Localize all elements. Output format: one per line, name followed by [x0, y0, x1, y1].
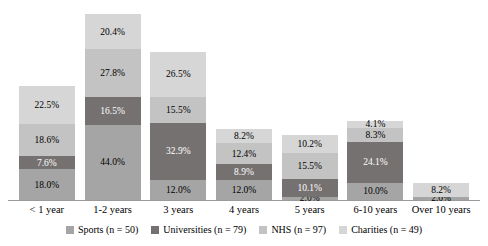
- bar-segment-label: 12.0%: [166, 185, 191, 195]
- bar-segment-label: 8.2%: [234, 131, 254, 141]
- legend-label: Sports (n = 50): [78, 224, 138, 236]
- bar-stack[interactable]: 2.0%10.1%15.5%10.2%: [282, 135, 338, 200]
- bar-segment[interactable]: 44.0%: [85, 125, 141, 200]
- x-axis-baseline: [8, 200, 480, 201]
- x-axis-label-3: 3 years: [145, 202, 211, 218]
- x-axis-label-6: 6-10 years: [343, 202, 409, 218]
- bar-stack[interactable]: 12.0%32.9%15.5%26.5%: [150, 52, 206, 200]
- bar-segment[interactable]: 18.6%: [19, 124, 75, 156]
- legend-label: Universities (n = 79): [163, 224, 246, 236]
- bar-segment[interactable]: 32.9%: [150, 123, 206, 179]
- bar-segment-label: 8.3%: [366, 130, 386, 140]
- bar-segment[interactable]: 7.6%: [19, 156, 75, 169]
- bar-segment[interactable]: 8.3%: [347, 128, 403, 142]
- bar-segment[interactable]: 24.1%: [347, 142, 403, 183]
- legend-swatch-icon: [66, 226, 74, 234]
- bar-segment[interactable]: 16.5%: [85, 97, 141, 125]
- bar-segment-label: 8.2%: [431, 185, 451, 195]
- x-axis-label-5: 5 years: [277, 202, 343, 218]
- bar-segment[interactable]: 10.1%: [282, 179, 338, 196]
- legend-item-3[interactable]: NHS (n = 97): [259, 224, 326, 236]
- bar-segment[interactable]: 8.2%: [216, 129, 272, 143]
- bar-segment-label: 22.5%: [35, 100, 60, 110]
- x-axis-label-4: 4 years: [211, 202, 277, 218]
- bar-segment[interactable]: 10.2%: [282, 135, 338, 152]
- x-axis-label-2: 1-2 years: [80, 202, 146, 218]
- bar-segment-label: 16.5%: [100, 106, 125, 116]
- bar-stack[interactable]: 44.0%16.5%27.8%20.4%: [85, 14, 141, 200]
- legend-item-1[interactable]: Sports (n = 50): [66, 224, 138, 236]
- bar-segment-label: 15.5%: [166, 105, 191, 115]
- bar-segment[interactable]: 8.9%: [216, 164, 272, 179]
- bar-segment-label: 12.0%: [232, 185, 257, 195]
- bar-segment[interactable]: 8.2%: [413, 183, 469, 197]
- bar-stack[interactable]: 2.0%8.2%: [413, 183, 469, 200]
- bar-segment-label: 18.6%: [35, 135, 60, 145]
- bar-segment[interactable]: 26.5%: [150, 52, 206, 97]
- legend-label: Charities (n = 49): [351, 224, 422, 236]
- bar-segment-label: 20.4%: [100, 27, 125, 37]
- bar-segment[interactable]: 12.0%: [216, 180, 272, 201]
- x-axis-tick-labels: < 1 year1-2 years3 years4 years5 years6-…: [0, 202, 488, 220]
- bar-segment-label: 10.0%: [363, 186, 388, 196]
- bar-segment-label: 44.0%: [100, 157, 125, 167]
- bar-segment[interactable]: 18.0%: [19, 169, 75, 200]
- legend-label: NHS (n = 97): [271, 224, 326, 236]
- bar-segment-label: 10.1%: [297, 183, 322, 193]
- bar-segment-label: 18.0%: [35, 180, 60, 190]
- stacked-bar-chart: 18.0%7.6%18.6%22.5%44.0%16.5%27.8%20.4%1…: [0, 0, 488, 246]
- x-axis-label-7: Over 10 years: [408, 202, 474, 218]
- bar-segment-label: 4.1%: [366, 119, 386, 129]
- bar-segment[interactable]: 15.5%: [282, 153, 338, 179]
- bar-segment[interactable]: 12.0%: [150, 180, 206, 201]
- bar-segment[interactable]: 12.4%: [216, 143, 272, 164]
- bar-segment-label: 8.9%: [234, 167, 254, 177]
- bar-stack[interactable]: 12.0%8.9%12.4%8.2%: [216, 129, 272, 200]
- bar-segment-label: 10.2%: [297, 139, 322, 149]
- bar-segment[interactable]: 10.0%: [347, 183, 403, 200]
- legend-item-2[interactable]: Universities (n = 79): [151, 224, 246, 236]
- bar-segment-label: 24.1%: [363, 157, 388, 167]
- bar-segment[interactable]: 2.0%: [282, 197, 338, 200]
- bar-segment-label: 15.5%: [297, 161, 322, 171]
- bar-segment-label: 32.9%: [166, 146, 191, 156]
- bar-segment-label: 26.5%: [166, 69, 191, 79]
- bar-segment-label: 7.6%: [37, 158, 57, 168]
- chart-legend: Sports (n = 50)Universities (n = 79)NHS …: [0, 222, 488, 238]
- x-axis-label-1: < 1 year: [14, 202, 80, 218]
- bar-stack[interactable]: 18.0%7.6%18.6%22.5%: [19, 86, 75, 200]
- bar-stack[interactable]: 10.0%24.1%8.3%4.1%: [347, 121, 403, 200]
- bar-segment[interactable]: 20.4%: [85, 14, 141, 49]
- legend-swatch-icon: [339, 226, 347, 234]
- bar-segment-label: 12.4%: [232, 149, 257, 159]
- bar-segment[interactable]: 27.8%: [85, 49, 141, 97]
- bar-segment[interactable]: 22.5%: [19, 86, 75, 124]
- legend-swatch-icon: [259, 226, 267, 234]
- bar-segment-label: 27.8%: [100, 68, 125, 78]
- legend-item-4[interactable]: Charities (n = 49): [339, 224, 422, 236]
- legend-swatch-icon: [151, 226, 159, 234]
- bar-segment[interactable]: 2.0%: [413, 197, 469, 200]
- bar-segment[interactable]: 15.5%: [150, 97, 206, 123]
- bar-segment[interactable]: 4.1%: [347, 121, 403, 128]
